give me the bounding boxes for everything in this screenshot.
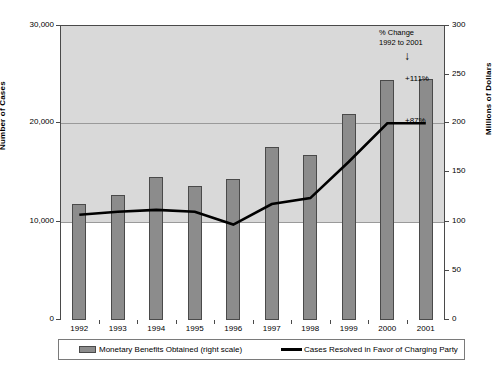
x-axis-tick-1997: 1997 [255,324,289,333]
x-axis-tick-2001: 2001 [409,324,443,333]
pct-change-annotation-line2: 1992 to 2001 [379,38,423,48]
legend-item-line: Cases Resolved in Favor of Charging Part… [281,345,458,354]
bar-2000 [380,80,394,320]
y-axis-right-tickmark-0 [445,319,449,320]
legend-label-bar: Monetary Benefits Obtained (right scale) [99,345,242,354]
x-axis-tickmark-4 [253,320,254,324]
y-axis-left-tick-10000: 10,000 [8,217,54,225]
bar-1992 [72,204,86,320]
y-axis-right-tickmark-50 [445,270,449,271]
legend-item-bar: Monetary Benefits Obtained (right scale) [79,345,242,354]
x-axis-tickmark-2 [176,320,177,324]
x-axis-tick-1995: 1995 [178,324,212,333]
bar-1998 [303,155,317,320]
y-axis-left-tickmark-0 [56,319,60,320]
y-axis-left-tickmark-30000 [56,25,60,26]
line-pct-change-label: +87% [405,116,426,125]
bar-1993 [111,195,125,320]
x-axis-tick-2000: 2000 [370,324,404,333]
x-axis-tick-1994: 1994 [139,324,173,333]
y-axis-left-tick-30000: 30,000 [8,21,54,29]
y-axis-left-tick-0: 0 [8,315,54,323]
pct-change-annotation-line1: % Change [379,28,423,38]
y-axis-right-tick-50: 50 [452,266,492,274]
y-axis-right-tick-100: 100 [452,217,492,225]
y-axis-left-tickmark-20000 [56,122,60,123]
x-axis-tick-1993: 1993 [101,324,135,333]
bar-1995 [188,186,202,320]
bar-pct-change-label: +111% [405,74,429,83]
y-axis-right-tickmark-300 [445,25,449,26]
y-axis-left-title: Number of Cases [0,81,7,150]
y-axis-right-tick-300: 300 [452,21,492,29]
x-axis-tickmark-6 [330,320,331,324]
bar-1999 [342,114,356,321]
x-axis-tick-1996: 1996 [216,324,250,333]
legend-label-line: Cases Resolved in Favor of Charging Part… [304,345,458,354]
bar-1994 [149,177,163,320]
y-axis-right-tick-200: 200 [452,118,492,126]
y-axis-left-tick-20000: 20,000 [8,118,54,126]
legend: Monetary Benefits Obtained (right scale)… [58,339,465,360]
y-axis-right-tick-250: 250 [452,70,492,78]
legend-swatch-bar-icon [79,346,96,353]
bar-1996 [226,179,240,320]
legend-swatch-line-icon [281,348,302,351]
y-axis-right-tick-0: 0 [452,315,492,323]
y-axis-right-tickmark-150 [445,171,449,172]
x-axis-tickmark-3 [214,320,215,324]
x-axis-tickmark-1 [137,320,138,324]
chart-container: Number of Cases 30,000 20,000 10,000 0 M… [0,0,501,377]
x-axis-tick-1992: 1992 [62,324,96,333]
y-axis-left-tickmark-10000 [56,221,60,222]
bar-1997 [265,147,279,320]
x-axis-tickmark-7 [368,320,369,324]
down-arrow-icon: ↓ [404,50,410,62]
pct-change-annotation: % Change 1992 to 2001 [379,28,423,48]
x-axis-tick-1999: 1999 [332,324,366,333]
y-axis-right-tickmark-250 [445,74,449,75]
x-axis-tickmark-8 [407,320,408,324]
x-axis-tickmark-5 [291,320,292,324]
x-axis-tick-1998: 1998 [293,324,327,333]
x-axis-tickmark-0 [99,320,100,324]
y-axis-right-tickmark-200 [445,122,449,123]
y-axis-right-tickmark-100 [445,221,449,222]
y-axis-right-tick-150: 150 [452,167,492,175]
